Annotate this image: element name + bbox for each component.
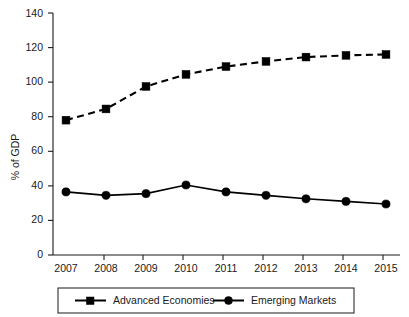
- chart-legend: Advanced Economies Emerging Markets: [58, 288, 354, 313]
- x-tick-label-2010: 2010: [174, 262, 198, 274]
- data-point-marker: [62, 116, 70, 124]
- data-point-marker: [182, 181, 190, 189]
- y-axis-ticks: [48, 13, 53, 255]
- y-tick-label-20: 20: [31, 213, 43, 225]
- data-point-marker: [342, 51, 350, 59]
- chart-container: % of GDP 140 120 100 80 60 40 20 0: [0, 0, 409, 317]
- data-point-marker: [182, 70, 190, 78]
- x-tick-label-2015: 2015: [374, 262, 398, 274]
- x-tick-label-2011: 2011: [215, 262, 238, 274]
- data-point-marker: [102, 191, 110, 199]
- y-tick-label-120: 120: [25, 41, 43, 53]
- legend-label-advanced-economies: Advanced Economies: [113, 294, 215, 306]
- circle-marker-icon: [225, 297, 233, 305]
- data-point-marker: [262, 191, 270, 199]
- x-tick-label-2013: 2013: [294, 262, 318, 274]
- x-tick-label-2014: 2014: [334, 262, 358, 274]
- data-point-marker: [262, 58, 270, 66]
- data-point-marker: [62, 188, 70, 196]
- data-point-marker: [302, 53, 310, 61]
- data-point-marker: [222, 63, 230, 71]
- square-marker-icon: [87, 297, 95, 305]
- data-point-marker: [142, 190, 150, 198]
- data-point-marker: [142, 83, 150, 91]
- x-axis-ticks: [104, 255, 383, 260]
- data-point-marker: [102, 105, 110, 113]
- y-tick-label-80: 80: [31, 110, 43, 122]
- legend-label-emerging-markets: Emerging Markets: [251, 294, 336, 306]
- x-tick-label-2007: 2007: [54, 262, 78, 274]
- y-tick-label-0: 0: [37, 248, 43, 260]
- y-tick-label-40: 40: [31, 179, 43, 191]
- line-chart: % of GDP 140 120 100 80 60 40 20 0: [0, 0, 409, 317]
- y-tick-label-140: 140: [25, 7, 43, 19]
- data-point-marker: [382, 51, 390, 59]
- y-tick-label-60: 60: [31, 144, 43, 156]
- y-axis-title: % of GDP: [9, 134, 21, 181]
- series-markers-advanced-economies: [62, 51, 390, 124]
- y-tick-label-100: 100: [25, 75, 43, 87]
- x-tick-label-2012: 2012: [254, 262, 278, 274]
- data-point-marker: [222, 188, 230, 196]
- data-point-marker: [302, 195, 310, 203]
- x-tick-label-2009: 2009: [134, 262, 158, 274]
- data-point-marker: [342, 197, 350, 205]
- data-point-marker: [382, 200, 390, 208]
- x-tick-label-2008: 2008: [94, 262, 118, 274]
